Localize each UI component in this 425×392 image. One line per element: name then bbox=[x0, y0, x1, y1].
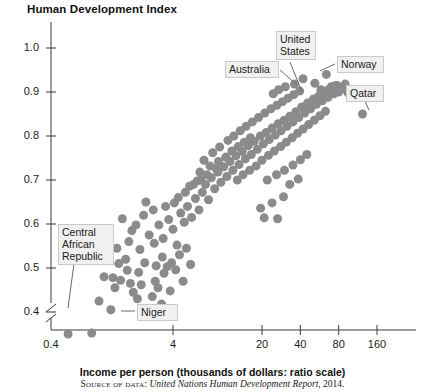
data-point bbox=[211, 164, 220, 173]
data-point bbox=[124, 237, 133, 246]
data-point bbox=[256, 204, 265, 213]
x-tick-label: 80 bbox=[333, 338, 345, 350]
y-axis-break-mark bbox=[46, 304, 56, 312]
data-point bbox=[154, 283, 163, 292]
data-point bbox=[246, 133, 255, 142]
data-point bbox=[150, 239, 159, 248]
callout-niger: Niger bbox=[137, 304, 178, 321]
data-point bbox=[64, 330, 73, 339]
data-point bbox=[273, 214, 282, 223]
data-point bbox=[141, 198, 150, 207]
source-label: Source of data: bbox=[81, 379, 147, 389]
data-point bbox=[191, 194, 200, 203]
y-tick-label: 1.0 bbox=[13, 41, 39, 53]
callout-united-states: United States bbox=[276, 31, 316, 60]
data-point bbox=[161, 202, 170, 211]
data-point bbox=[176, 209, 185, 218]
data-point bbox=[171, 265, 180, 274]
y-tick-label: 0.9 bbox=[13, 85, 39, 97]
data-point bbox=[133, 294, 142, 303]
data-point bbox=[316, 85, 325, 94]
data-point bbox=[186, 260, 195, 269]
data-point bbox=[127, 226, 136, 235]
data-point bbox=[154, 220, 163, 229]
data-point bbox=[279, 192, 288, 201]
chart-figure: Human Development Index 0.40.50.60.70.80… bbox=[0, 0, 425, 392]
data-point bbox=[114, 259, 123, 268]
data-point bbox=[185, 182, 194, 191]
data-point bbox=[302, 150, 311, 159]
data-point bbox=[149, 205, 158, 214]
data-point bbox=[321, 107, 330, 116]
data-point bbox=[175, 250, 184, 259]
data-point bbox=[123, 266, 132, 275]
data-point bbox=[164, 215, 173, 224]
data-point bbox=[183, 202, 192, 211]
data-point bbox=[208, 148, 217, 157]
x-axis-title: Income per person (thousands of dollars:… bbox=[0, 366, 425, 378]
data-point bbox=[285, 180, 294, 189]
data-point bbox=[203, 170, 212, 179]
data-point bbox=[110, 283, 119, 292]
data-points-layer bbox=[64, 70, 367, 339]
leader-qatar bbox=[365, 101, 369, 110]
data-point bbox=[134, 268, 143, 277]
y-tick-label: 0.8 bbox=[13, 129, 39, 141]
data-point bbox=[322, 70, 331, 79]
source-year: , 2014. bbox=[318, 379, 344, 389]
data-point bbox=[268, 198, 277, 207]
data-point bbox=[358, 110, 367, 119]
data-point bbox=[135, 245, 144, 254]
data-point bbox=[173, 241, 182, 250]
data-point bbox=[158, 253, 167, 262]
data-point bbox=[106, 305, 115, 314]
data-point bbox=[170, 198, 179, 207]
y-tick-label: 0.4 bbox=[13, 305, 39, 317]
data-point bbox=[260, 213, 269, 222]
x-tick-label: 4 bbox=[170, 338, 176, 350]
source-note: Source of data: United Nations Human Dev… bbox=[0, 379, 425, 389]
x-tick-label: 40 bbox=[294, 338, 306, 350]
data-point bbox=[299, 74, 308, 83]
data-point bbox=[179, 277, 188, 286]
callout-qatar: Qatar bbox=[346, 85, 384, 102]
data-point bbox=[116, 276, 125, 285]
data-point bbox=[108, 273, 117, 282]
x-tick-label: 20 bbox=[256, 338, 268, 350]
data-point bbox=[272, 170, 281, 179]
callout-central-african-republic: Central African Republic bbox=[58, 224, 114, 265]
x-tick-label: 160 bbox=[368, 338, 386, 350]
callout-australia: Australia bbox=[225, 61, 279, 78]
data-point bbox=[95, 297, 104, 306]
data-point bbox=[100, 272, 109, 281]
data-point bbox=[145, 231, 154, 240]
y-tick-label: 0.7 bbox=[13, 173, 39, 185]
leader-norway bbox=[320, 64, 335, 71]
data-point bbox=[148, 292, 157, 301]
data-point bbox=[182, 244, 191, 253]
data-point bbox=[210, 184, 219, 193]
data-point bbox=[187, 213, 196, 222]
x-tick-label: 0.4 bbox=[43, 338, 58, 350]
data-point bbox=[204, 195, 213, 204]
data-point bbox=[169, 225, 178, 234]
data-point bbox=[193, 176, 202, 185]
data-point bbox=[294, 175, 303, 184]
data-point bbox=[180, 218, 189, 227]
data-point bbox=[327, 82, 336, 91]
data-point bbox=[126, 279, 135, 288]
data-point bbox=[334, 88, 343, 97]
data-point bbox=[140, 258, 149, 267]
data-point bbox=[87, 329, 96, 338]
y-tick-label: 0.5 bbox=[13, 261, 39, 273]
data-point bbox=[194, 205, 203, 214]
source-report-title: United Nations Human Development Report bbox=[149, 379, 318, 389]
data-point bbox=[118, 214, 127, 223]
data-point bbox=[198, 188, 207, 197]
data-point bbox=[263, 176, 272, 185]
data-point bbox=[137, 280, 146, 289]
data-point bbox=[288, 161, 297, 170]
data-point bbox=[215, 143, 224, 152]
data-point bbox=[269, 89, 278, 98]
data-point bbox=[159, 234, 168, 243]
